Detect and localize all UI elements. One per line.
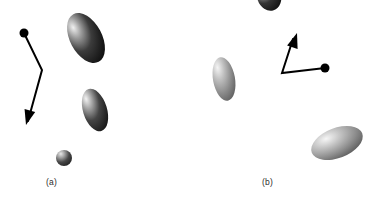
ellipsoid-a-large-top [59,7,113,70]
ellipsoid-b-top-clipped [253,0,285,14]
panel-a-ellipsoids [56,7,113,166]
vector-path-a-arrowhead [25,109,36,125]
vector-path-a [20,29,43,126]
ellipsoid-a-mid [77,85,113,134]
panel-label-a: (a) [46,177,57,187]
figure-graphics [0,0,383,202]
figure-canvas: (a) (b) [0,0,383,202]
panel-b-ellipsoids [209,0,367,167]
vector-path-a-start-dot [20,29,29,38]
panel-label-b: (b) [262,177,273,187]
vector-path-b-start-dot [321,64,330,73]
vector-path-b [282,33,330,73]
ellipsoid-b-left [209,55,238,102]
ellipsoid-a-small-bottom [56,150,72,166]
vector-path-a-line [24,33,42,121]
vector-path-b-arrowhead [287,33,297,49]
ellipsoid-b-bottom-right [306,119,367,166]
